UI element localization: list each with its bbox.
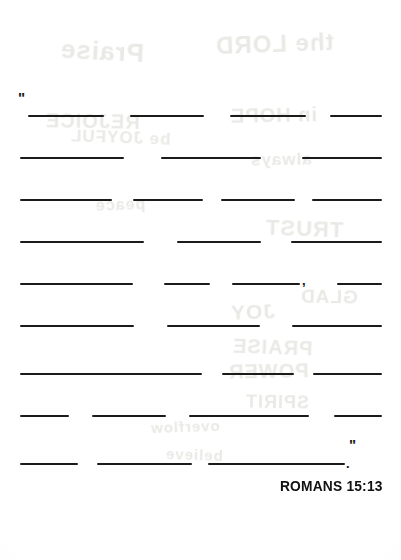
answer-blank[interactable] bbox=[20, 325, 134, 327]
period-mark: . bbox=[346, 457, 350, 470]
answer-blank[interactable] bbox=[334, 415, 382, 417]
paper-texture bbox=[0, 0, 401, 560]
answer-blank[interactable] bbox=[177, 241, 261, 243]
answer-blank[interactable] bbox=[130, 115, 204, 117]
showthrough-fragment: be JOYFUL bbox=[70, 126, 171, 149]
answer-blank[interactable] bbox=[222, 373, 294, 375]
showthrough-fragment: Praise bbox=[59, 34, 145, 69]
showthrough-fragment: GLAD bbox=[300, 285, 358, 308]
answer-blank[interactable] bbox=[20, 283, 133, 285]
showthrough-fragment: TRUST bbox=[265, 215, 344, 244]
answer-blank[interactable] bbox=[28, 115, 104, 117]
showthrough-fragment: POWER bbox=[228, 359, 309, 383]
answer-blank[interactable] bbox=[20, 415, 69, 417]
answer-blank[interactable] bbox=[291, 241, 382, 243]
showthrough-fragment: SPIRIT bbox=[245, 391, 309, 413]
showthrough-fragment: believe bbox=[165, 445, 223, 464]
closing-quotation-mark: " bbox=[349, 437, 355, 452]
answer-blank[interactable] bbox=[337, 283, 382, 285]
answer-blank[interactable] bbox=[161, 157, 261, 159]
showthrough-fragment: JOY bbox=[230, 299, 276, 325]
answer-blank[interactable] bbox=[20, 463, 78, 465]
worksheet-page: Praisethe LORDREJOICEin HOPEbe JOYFULalw… bbox=[0, 0, 401, 560]
answer-blank[interactable] bbox=[133, 199, 203, 201]
answer-blank[interactable] bbox=[97, 463, 192, 465]
showthrough-fragment: the LORD bbox=[215, 28, 335, 60]
answer-blank[interactable] bbox=[330, 115, 382, 117]
answer-blank[interactable] bbox=[232, 283, 300, 285]
answer-blank[interactable] bbox=[167, 325, 260, 327]
opening-quotation-mark: " bbox=[18, 90, 24, 105]
answer-blank[interactable] bbox=[221, 199, 295, 201]
answer-blank[interactable] bbox=[313, 373, 382, 375]
answer-blank[interactable] bbox=[230, 115, 306, 117]
answer-blank[interactable] bbox=[20, 241, 144, 243]
answer-blank[interactable] bbox=[302, 157, 382, 159]
showthrough-fragment: always bbox=[250, 149, 312, 170]
showthrough-fragment: PRAISE bbox=[232, 335, 313, 361]
showthrough-fragment: REJOICE bbox=[45, 109, 140, 134]
answer-blank[interactable] bbox=[20, 199, 112, 201]
answer-blank[interactable] bbox=[208, 463, 345, 465]
answer-blank[interactable] bbox=[292, 325, 382, 327]
answer-blank[interactable] bbox=[164, 283, 210, 285]
answer-blank[interactable] bbox=[312, 199, 382, 201]
answer-blank[interactable] bbox=[92, 415, 166, 417]
answer-blank[interactable] bbox=[189, 415, 309, 417]
verse-attribution: ROMANS 15:13 bbox=[280, 477, 383, 494]
showthrough-fragment: overflow bbox=[150, 417, 220, 436]
answer-blank[interactable] bbox=[20, 373, 202, 375]
comma-mark: , bbox=[302, 274, 306, 287]
answer-blank[interactable] bbox=[20, 157, 124, 159]
